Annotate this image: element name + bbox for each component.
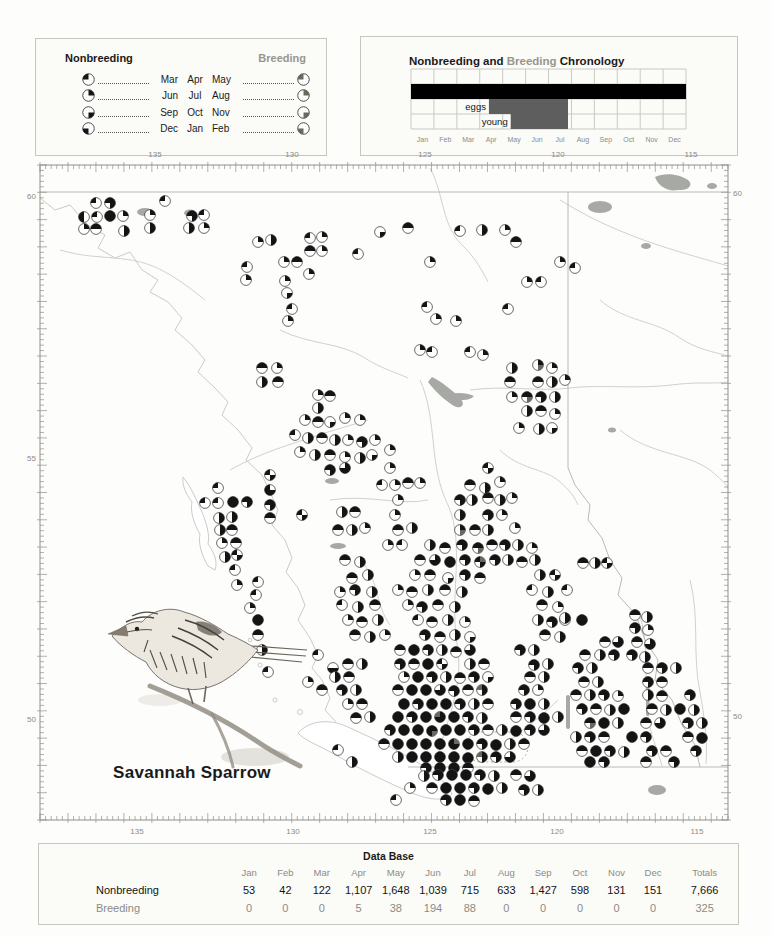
pie-marker [511, 237, 522, 248]
row-label: Nonbreeding [39, 881, 231, 899]
pie-marker [445, 557, 456, 568]
pie-marker [483, 463, 494, 474]
pie-marker [265, 485, 276, 496]
month-value: 0 [304, 899, 340, 917]
svg-text:135: 135 [130, 827, 144, 836]
pie-marker [489, 771, 500, 782]
pie-marker [511, 712, 522, 723]
mid-month-label: Oct [178, 107, 212, 118]
pie-marker [335, 587, 346, 598]
pie-marker [397, 540, 408, 551]
pie-marker [373, 615, 384, 626]
pie-marker [477, 225, 488, 236]
pie-marker [511, 726, 522, 737]
pie-marker [671, 663, 682, 674]
svg-text:115: 115 [685, 150, 698, 159]
pie-marker [300, 415, 311, 426]
pie-marker [265, 513, 276, 524]
pie-marker [657, 677, 668, 688]
pie-marker [465, 645, 476, 656]
pie-marker [407, 752, 418, 763]
pie-marker [580, 650, 591, 661]
pie-marker [407, 587, 418, 598]
pie-marker [619, 704, 630, 715]
pie-marker [105, 198, 116, 209]
pie-marker [605, 746, 616, 757]
pie-marker [585, 690, 596, 701]
pie-marker [393, 739, 404, 750]
pie-marker [491, 752, 502, 763]
pie-marker [441, 795, 452, 806]
pie-marker [423, 645, 434, 656]
bird-illustration [108, 609, 307, 767]
svg-text:50: 50 [27, 715, 36, 724]
pie-marker [510, 523, 521, 534]
pie-marker [279, 257, 290, 268]
pie-marker [619, 747, 630, 758]
pie-marker [585, 718, 596, 729]
pie-marker [536, 277, 547, 288]
svg-text:125: 125 [423, 827, 437, 836]
pie-marker [403, 600, 414, 611]
pie-marker [641, 732, 652, 743]
pie-marker [627, 732, 638, 743]
pie-marker [421, 752, 432, 763]
month-header: Sep [525, 863, 562, 881]
pie-marker [525, 712, 536, 723]
month-value: 0 [635, 899, 671, 917]
pie-marker [495, 495, 506, 506]
pie-marker [344, 672, 355, 683]
pie-marker [571, 732, 582, 743]
pie-marker [655, 718, 666, 729]
pie-marker [435, 632, 446, 643]
borders [40, 192, 728, 767]
pie-marker [337, 600, 348, 611]
svg-text:120: 120 [550, 827, 564, 836]
pie-marker [469, 783, 480, 794]
pie-marker [425, 570, 436, 581]
pie-marker [540, 630, 551, 641]
pie-marker [160, 196, 171, 207]
distribution-map: 1351351301301251251201201151156055506050 [0, 145, 772, 845]
pie-marker [423, 585, 434, 596]
pie-marker [272, 363, 283, 374]
pie-marker [435, 712, 446, 723]
species-name: Savannah Sparrow [113, 763, 271, 783]
pie-marker [83, 106, 95, 118]
pie-marker [257, 377, 268, 388]
pie-marker [450, 630, 461, 641]
pie-marker [355, 415, 366, 426]
pie-marker [477, 739, 488, 750]
seasonal-legend: Nonbreeding Breeding MarAprMayJunJulAugS… [35, 38, 327, 156]
pie-marker [350, 630, 361, 641]
pie-marker [591, 704, 602, 715]
pie-marker [391, 795, 402, 806]
pie-marker [469, 725, 480, 736]
pie-marker [343, 659, 354, 670]
pie-marker [640, 652, 651, 663]
pie-marker [407, 523, 418, 534]
pie-marker [477, 752, 488, 763]
pie-marker [547, 377, 558, 388]
pie-marker [641, 757, 652, 768]
pie-marker [230, 565, 241, 576]
pie-marker [217, 538, 228, 549]
pie-marker [297, 510, 308, 521]
pie-marker [214, 513, 225, 524]
pie-marker [333, 525, 344, 536]
pie-marker [547, 617, 558, 628]
pie-marker [536, 392, 547, 403]
total-value: 7,666 [671, 881, 738, 899]
pie-marker [399, 672, 410, 683]
pie-marker [431, 314, 442, 325]
pie-marker [253, 577, 264, 588]
pie-marker [232, 550, 243, 561]
pie-marker [451, 647, 462, 658]
pie-marker [303, 677, 314, 688]
pie-marker [360, 523, 371, 534]
month-header: Feb [267, 863, 303, 881]
breeding-month-label: Feb [212, 123, 240, 134]
pie-marker [500, 540, 511, 551]
pie-marker [550, 409, 561, 420]
pie-marker [427, 617, 438, 628]
